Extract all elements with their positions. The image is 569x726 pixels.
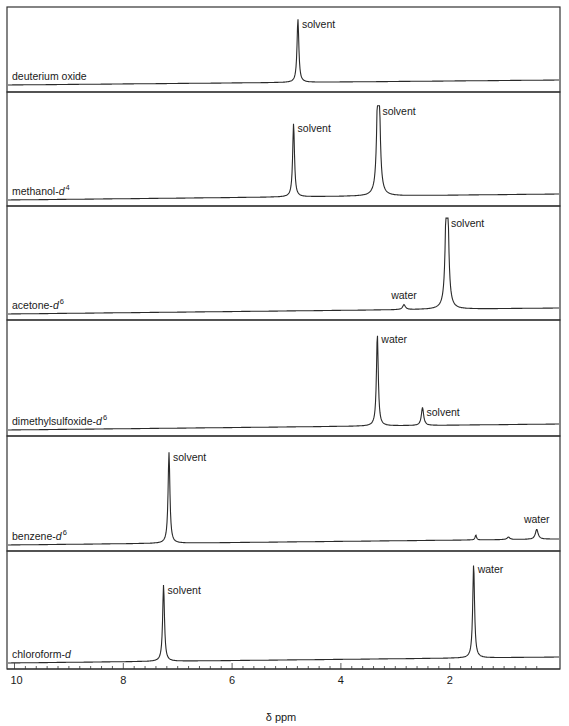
spectrum-trace — [8, 218, 559, 314]
solvent-name-label: deuterium oxide — [12, 70, 87, 82]
spectrum-panel: solventdeuterium oxide — [7, 7, 560, 92]
spectrum-trace — [8, 106, 559, 200]
tick-label: 6 — [229, 674, 235, 686]
solvent-name-label: chloroform-d — [12, 648, 72, 660]
x-axis: 108642 — [7, 663, 560, 686]
panel-frame — [7, 92, 560, 206]
spectrum-panel: solventwaterbenzene-d6 — [7, 436, 560, 551]
peak-label-solvent: solvent — [298, 122, 331, 134]
peak-label-solvent: solvent — [451, 217, 484, 229]
spectra-panels: solventdeuterium oxidesolventsolventmeth… — [7, 7, 560, 669]
spectrum-trace — [8, 566, 559, 664]
peak-label-water: water — [477, 563, 504, 575]
peak-label-solvent: solvent — [382, 105, 415, 117]
peak-label-water: water — [523, 513, 550, 525]
solvent-name-label: methanol-d4 — [12, 183, 70, 197]
tick-label: 2 — [447, 674, 453, 686]
spectrum-trace — [8, 452, 559, 545]
panel-frame — [7, 436, 560, 551]
solvent-name-label: dimethylsulfoxide-d6 — [12, 413, 107, 427]
spectrum-trace — [8, 19, 559, 85]
peak-label-solvent: solvent — [173, 451, 206, 463]
tick-label: 10 — [10, 674, 22, 686]
peak-label-solvent: solvent — [302, 18, 335, 30]
spectrum-panel: solventsolventmethanol-d4 — [7, 92, 560, 206]
spectrum-panel: watersolventdimethylsulfoxide-d6 — [7, 320, 560, 436]
spectrum-panel: solventwaterchloroform-d — [7, 551, 560, 669]
tick-label: 4 — [338, 674, 344, 686]
nmr-stacked-spectra-chart: solventdeuterium oxidesolventsolventmeth… — [0, 0, 569, 726]
peak-label-solvent: solvent — [168, 584, 201, 596]
tick-label: 8 — [120, 674, 126, 686]
solvent-name-label: acetone-d6 — [12, 297, 64, 311]
panel-frame — [7, 7, 560, 92]
x-axis-title: δ ppm — [266, 711, 297, 723]
peak-label-solvent: solvent — [427, 406, 460, 418]
solvent-name-label: benzene-d6 — [12, 528, 67, 542]
spectrum-panel: watersolventacetone-d6 — [7, 206, 560, 320]
peak-label-water: water — [390, 289, 417, 301]
peak-label-water: water — [380, 333, 407, 345]
